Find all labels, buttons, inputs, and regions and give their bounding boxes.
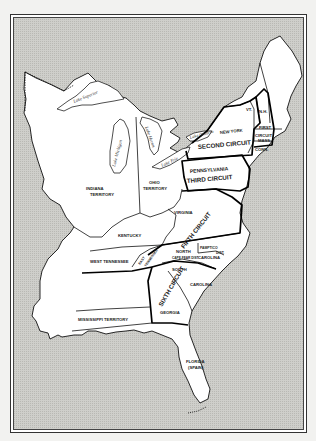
ohio-territory-label-1: OHIO	[149, 180, 160, 185]
circuit-map: Lake Superior Lake Michigan Lake Huron L…	[14, 18, 304, 430]
first-circuit-label-2: CIRCUIT	[255, 133, 272, 138]
vermont-label: VT.	[246, 107, 252, 112]
west-tennessee-label: WEST TENNESSEE	[90, 259, 129, 264]
florida-label-2: (SPAIN)	[188, 365, 204, 370]
indiana-territory-label-1: INDIANA	[86, 186, 103, 191]
map-inner-border: Lake Superior Lake Michigan Lake Huron L…	[13, 17, 304, 430]
massachusetts-label: MASS.	[258, 138, 271, 143]
south-carolina-label-2: CAROLINA	[190, 282, 212, 287]
ohio-territory-label-2: TERRITORY	[143, 186, 167, 191]
virginia-label: VIRGINIA	[174, 210, 193, 215]
new-hampshire-label: N.H.	[259, 109, 267, 114]
map-frame: Lake Superior Lake Michigan Lake Huron L…	[10, 14, 307, 433]
first-circuit-label-1: FIRST	[259, 125, 272, 130]
kentucky-label: KENTUCKY	[118, 233, 141, 238]
pamptico-label-2: DIST.	[216, 251, 225, 255]
indiana-territory-label-2: TERRITORY	[90, 192, 114, 197]
florida-label-1: FLORIDA	[186, 359, 205, 364]
georgia-label: GEORGIA	[160, 310, 180, 315]
pamptico-label-1: PAMPTICO	[200, 246, 218, 250]
north-carolina-label-2: CAROLINA	[198, 255, 220, 260]
connecticut-label: CONN.	[255, 147, 269, 152]
mississippi-territory-label: MISSISSIPPI TERRITORY	[78, 317, 128, 322]
cape-fear-label: CAPE FEAR DIST.	[172, 256, 199, 260]
